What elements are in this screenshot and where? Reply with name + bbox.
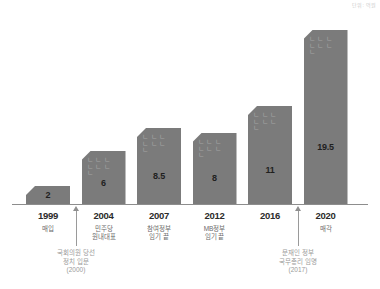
bar-2020: ㄴㄴㄴㄴㄴㄴㄴ19.5 [304, 30, 348, 204]
annotation-arrow-shaft [298, 211, 299, 246]
x-tick-2020: 2020매각 [290, 210, 362, 233]
bar-2016: ㄴㄴㄴㄴㄴㄴㄴ11 [248, 106, 292, 204]
bar-2004: ㄴㄴㄴㄴㄴㄴㄴ6 [82, 151, 126, 204]
bar-value-label: 6 [82, 178, 126, 188]
x-tick-sublabel: MB정부 임기 끝 [179, 225, 251, 241]
x-tick-sublabel: 매각 [290, 225, 362, 233]
bar-value-label: 2 [26, 190, 70, 200]
bar-texture: ㄴㄴㄴㄴㄴㄴㄴ [309, 36, 339, 56]
bar-2007: ㄴㄴㄴㄴㄴㄴㄴ8.5 [137, 128, 181, 204]
bar-texture: ㄴㄴㄴㄴㄴㄴㄴ [198, 139, 228, 159]
bar-texture: ㄴㄴㄴㄴㄴㄴㄴ [253, 112, 283, 132]
annotation-caption: 문재인 정부 국무총리 임명 (2017) [253, 249, 343, 275]
bar-value-label: 19.5 [304, 142, 348, 152]
bar-value-label: 8.5 [137, 171, 181, 181]
plot-area: 2ㄴㄴㄴㄴㄴㄴㄴ6ㄴㄴㄴㄴㄴㄴㄴ8.5ㄴㄴㄴㄴㄴㄴㄴ8ㄴㄴㄴㄴㄴㄴㄴ11ㄴㄴㄴㄴ… [0, 8, 380, 204]
bar-2012: ㄴㄴㄴㄴㄴㄴㄴ8 [193, 133, 237, 204]
bar-1999: 2 [26, 186, 70, 204]
bar-chart: 단위: 억원 2ㄴㄴㄴㄴㄴㄴㄴ6ㄴㄴㄴㄴㄴㄴㄴ8.5ㄴㄴㄴㄴㄴㄴㄴ8ㄴㄴㄴㄴㄴㄴ… [0, 0, 380, 289]
bar-value-label: 8 [193, 173, 237, 183]
bar-value-label: 11 [248, 165, 292, 175]
bar-texture: ㄴㄴㄴㄴㄴㄴㄴ [87, 157, 117, 177]
x-axis-line [12, 204, 368, 205]
annotation-arrow-shaft [76, 211, 77, 246]
x-tick-year: 2020 [290, 210, 362, 221]
unit-note: 단위: 억원 [352, 1, 376, 8]
annotation-caption: 국회의원 당선 정치 입문 (2000) [31, 249, 121, 275]
bar-texture: ㄴㄴㄴㄴㄴㄴㄴ [142, 134, 172, 154]
